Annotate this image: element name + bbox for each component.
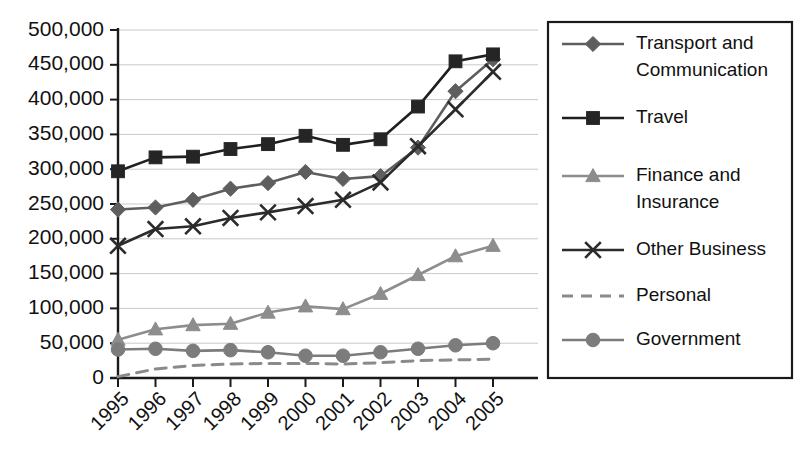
y-tick-label: 400,000 [28, 86, 104, 109]
marker-circle [586, 333, 600, 347]
y-tick-label: 200,000 [28, 225, 104, 248]
marker-square [337, 138, 350, 151]
legend-label: Government [636, 328, 741, 349]
marker-circle [336, 349, 350, 363]
legend-label: Finance and [636, 164, 741, 185]
marker-circle [261, 345, 275, 359]
legend-label: Other Business [636, 238, 766, 259]
y-tick-label: 300,000 [28, 156, 104, 179]
y-tick-label: 500,000 [28, 17, 104, 40]
y-tick-label: 50,000 [40, 330, 104, 353]
marker-square [112, 165, 125, 178]
marker-square [224, 143, 237, 156]
marker-square [587, 112, 600, 125]
marker-circle [486, 336, 500, 350]
chart-legend: Transport andCommunicationTravelFinance … [548, 22, 792, 378]
y-tick-label: 350,000 [28, 121, 104, 144]
marker-square [487, 48, 500, 61]
marker-circle [374, 345, 388, 359]
y-tick-label: 450,000 [28, 51, 104, 74]
y-tick-label: 100,000 [28, 295, 104, 318]
y-tick-label: 0 [92, 365, 104, 388]
y-axis-tick-labels: 050,000100,000150,000200,000250,000300,0… [28, 17, 104, 388]
line-chart: 050,000100,000150,000200,000250,000300,0… [0, 0, 800, 454]
legend-label: Transport and [636, 32, 754, 53]
marker-circle [224, 343, 238, 357]
marker-circle [411, 342, 425, 356]
marker-square [262, 138, 275, 151]
marker-circle [299, 349, 313, 363]
legend-label-line2: Insurance [636, 191, 719, 212]
legend-label: Travel [636, 106, 688, 127]
marker-square [374, 133, 387, 146]
legend-label-line2: Communication [636, 59, 768, 80]
marker-square [449, 55, 462, 68]
marker-circle [149, 342, 163, 356]
marker-circle [111, 343, 125, 357]
marker-circle [186, 344, 200, 358]
y-tick-label: 150,000 [28, 260, 104, 283]
y-tick-label: 250,000 [28, 191, 104, 214]
marker-square [187, 150, 200, 163]
marker-square [149, 151, 162, 164]
marker-square [299, 129, 312, 142]
chart-canvas: 050,000100,000150,000200,000250,000300,0… [0, 0, 800, 454]
legend-label: Personal [636, 284, 711, 305]
marker-circle [449, 338, 463, 352]
marker-square [412, 100, 425, 113]
